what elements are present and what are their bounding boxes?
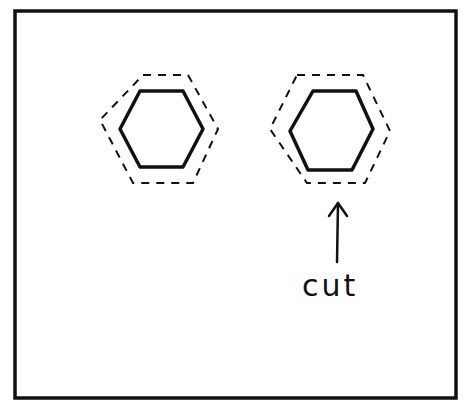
right-hexagon	[290, 91, 373, 170]
cut-annotation: cut	[302, 268, 358, 303]
left-hexagon	[120, 91, 203, 167]
diagram-canvas	[0, 0, 465, 405]
arrow-up-icon	[329, 203, 347, 262]
outer-frame	[15, 11, 456, 398]
